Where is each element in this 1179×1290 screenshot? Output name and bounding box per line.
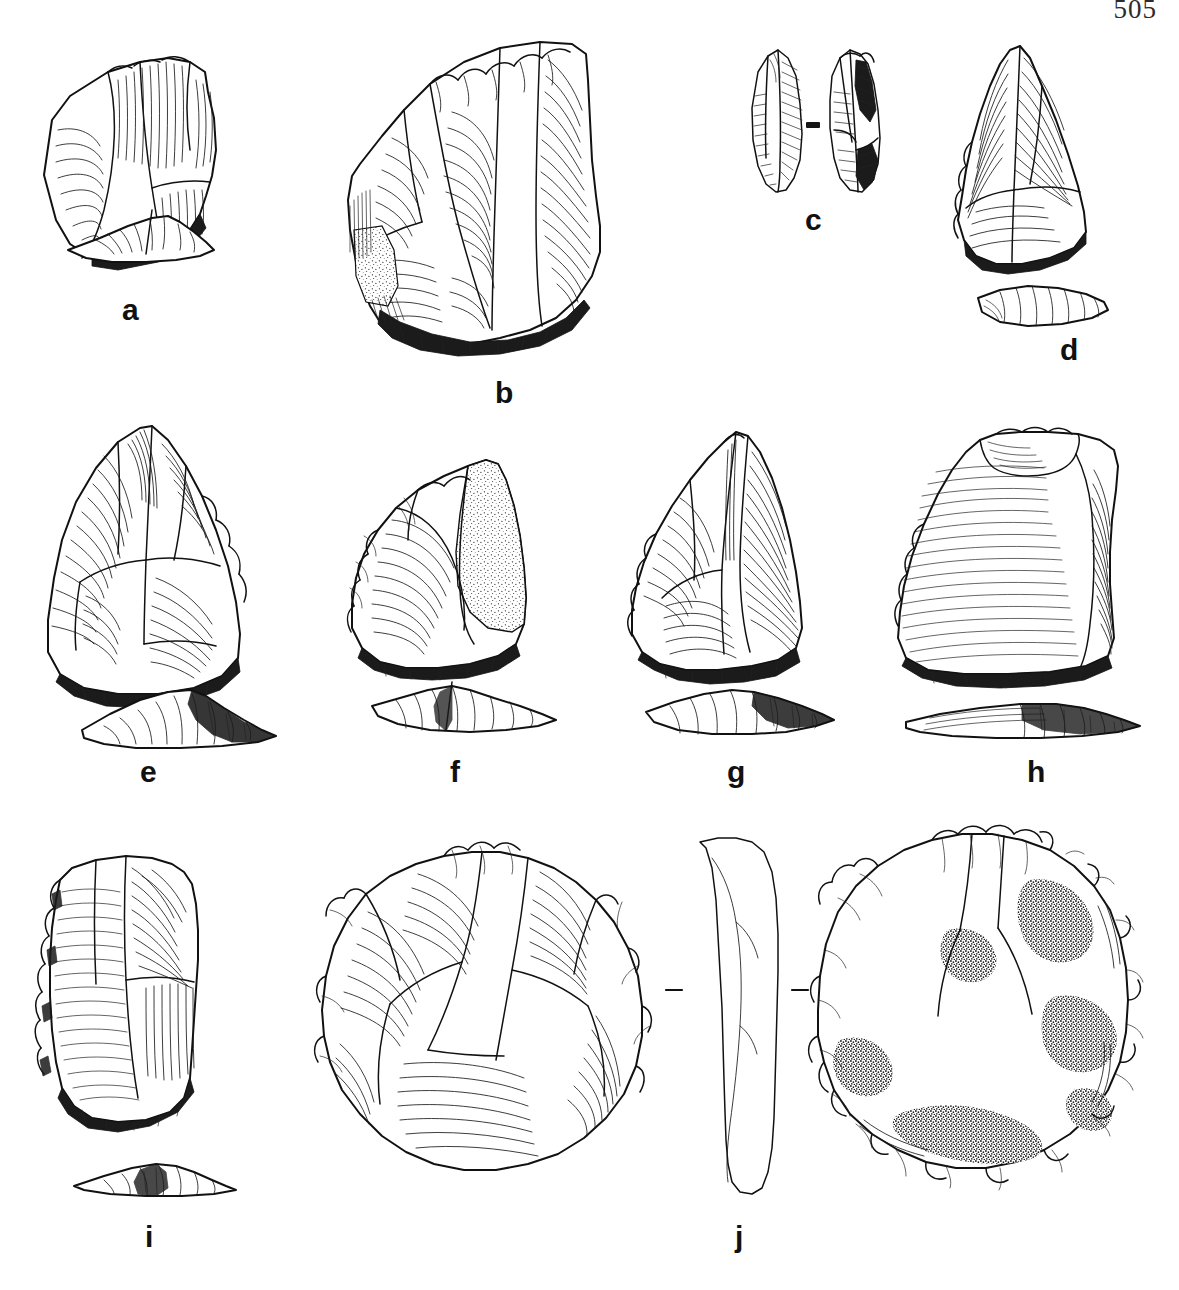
specimen-i-drawing xyxy=(35,856,236,1196)
discoidal-core-plan-drawing xyxy=(315,842,652,1170)
specimen-label-h: h xyxy=(1027,757,1045,787)
specimen-c-view-left xyxy=(752,50,802,192)
specimen-g-plan xyxy=(628,432,802,684)
lithic-artwork xyxy=(0,0,1179,1290)
specimen-c-view-right xyxy=(830,50,880,192)
specimen-f-drawing xyxy=(348,460,556,732)
specimen-f-plan xyxy=(348,460,526,680)
specimen-g-profile xyxy=(646,690,834,734)
specimen-h-drawing xyxy=(895,428,1140,739)
specimen-d-drawing xyxy=(954,46,1108,326)
specimen-j-profile xyxy=(700,838,778,1194)
specimen-e-plan xyxy=(48,426,246,708)
specimen-j-drawing xyxy=(666,825,1143,1194)
specimen-i-profile xyxy=(74,1164,236,1196)
specimen-e-drawing xyxy=(48,426,276,748)
specimen-i-plan xyxy=(35,856,198,1132)
specimen-j-face xyxy=(809,825,1143,1190)
specimen-h-profile xyxy=(906,704,1140,738)
specimen-label-a: a xyxy=(122,295,139,325)
specimen-label-e: e xyxy=(140,757,157,787)
specimen-a-drawing xyxy=(44,57,216,270)
specimen-label-f: f xyxy=(450,757,460,787)
specimen-label-d: d xyxy=(1060,335,1078,365)
specimen-label-g: g xyxy=(727,757,745,787)
specimen-label-i: i xyxy=(145,1222,153,1252)
specimen-b-drawing xyxy=(348,42,600,356)
specimen-f-profile xyxy=(372,682,556,732)
specimen-c-section-bar xyxy=(806,122,820,128)
specimen-d-plan xyxy=(954,46,1086,274)
specimen-label-b: b xyxy=(495,378,513,408)
specimen-label-j: j xyxy=(735,1222,743,1252)
specimen-d-profile xyxy=(978,286,1108,326)
specimen-label-c: c xyxy=(805,205,822,235)
specimen-c-drawing xyxy=(752,50,880,192)
specimen-h-plan xyxy=(895,428,1118,689)
illustration-plate: 505 xyxy=(0,0,1179,1290)
specimen-g-drawing xyxy=(628,432,834,734)
